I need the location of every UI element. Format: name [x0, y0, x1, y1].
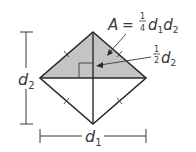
- d1-dimension-label: d1: [85, 127, 102, 148]
- svg-text:A: A: [107, 16, 118, 34]
- half-d2-label: 1 2 d2: [153, 45, 176, 68]
- svg-text:d1d2: d1d2: [148, 16, 179, 35]
- area-arrow: [110, 34, 126, 52]
- svg-text:4: 4: [140, 24, 145, 33]
- svg-text:1: 1: [140, 12, 145, 21]
- svg-text:2: 2: [154, 56, 159, 65]
- rhombus-area-diagram: d2 d1 A = 1 4 d1d2 1: [0, 0, 196, 152]
- d2-dimension-label: d2: [18, 70, 35, 91]
- svg-text:1: 1: [154, 45, 159, 54]
- diagram-canvas: d2 d1 A = 1 4 d1d2 1: [0, 0, 196, 152]
- svg-text:=: =: [122, 17, 134, 33]
- area-formula-label: A = 1 4 d1d2: [107, 12, 179, 35]
- svg-text:d2: d2: [161, 49, 176, 68]
